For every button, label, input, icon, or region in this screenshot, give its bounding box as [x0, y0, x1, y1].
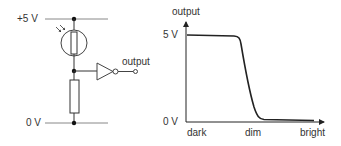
ground-label: 0 V — [26, 117, 41, 128]
x-tick-dim: dim — [245, 127, 261, 138]
y-tick-5v: 5 V — [163, 29, 178, 40]
diagram-canvas: +5 V output — [0, 0, 341, 146]
ldr-icon — [56, 19, 87, 71]
y-axis-label: output — [172, 6, 200, 17]
x-tick-dark: dark — [187, 127, 207, 138]
y-tick-0v: 0 V — [163, 116, 178, 127]
x-tick-bright: bright — [300, 127, 325, 138]
circuit: +5 V output — [17, 13, 150, 128]
ground-node — [72, 121, 76, 125]
output-label: output — [122, 56, 150, 67]
supply-label: +5 V — [17, 13, 38, 24]
resistor-icon — [70, 71, 79, 123]
chart: output 5 V 0 V dark dim bright — [163, 6, 325, 138]
output-curve — [187, 35, 314, 121]
